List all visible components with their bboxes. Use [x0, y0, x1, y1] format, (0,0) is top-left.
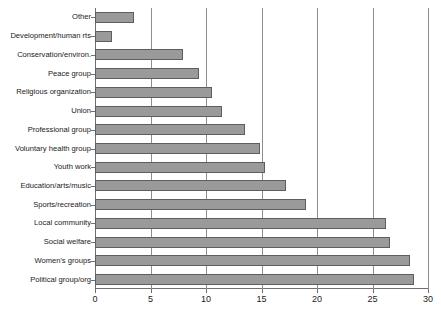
- x-tick-label: 25: [358, 294, 388, 304]
- y-tick-mark: [91, 205, 95, 206]
- category-label: Social welfare: [0, 238, 91, 246]
- y-tick-mark: [91, 92, 95, 93]
- bar: [95, 162, 265, 173]
- bar: [95, 124, 245, 135]
- x-tick-label: 5: [136, 294, 166, 304]
- category-label: Political group/org: [0, 276, 91, 284]
- category-label: Development/human rts: [0, 32, 91, 40]
- bar: [95, 218, 386, 229]
- y-tick-mark: [91, 130, 95, 131]
- category-label: Other: [0, 13, 91, 21]
- category-label: Union: [0, 107, 91, 115]
- bar: [95, 106, 222, 117]
- category-label: Sports/recreation: [0, 201, 91, 209]
- bar: [95, 237, 390, 248]
- category-label: Professional group: [0, 126, 91, 134]
- bar: [95, 180, 286, 191]
- y-tick-mark: [91, 167, 95, 168]
- y-tick-mark: [91, 223, 95, 224]
- y-tick-mark: [91, 36, 95, 37]
- x-tick-mark: [206, 289, 207, 293]
- bar: [95, 143, 260, 154]
- y-tick-mark: [91, 17, 95, 18]
- category-label: Religious organization: [0, 88, 91, 96]
- x-tick-label: 0: [80, 294, 110, 304]
- x-tick-mark: [428, 289, 429, 293]
- category-label: Voluntary health group: [0, 145, 91, 153]
- bar: [95, 87, 212, 98]
- x-tick-label: 15: [247, 294, 277, 304]
- category-label: Peace group: [0, 70, 91, 78]
- y-tick-mark: [91, 280, 95, 281]
- category-label: Education/arts/music: [0, 182, 91, 190]
- y-tick-mark: [91, 74, 95, 75]
- bar: [95, 255, 410, 266]
- bar: [95, 49, 183, 60]
- y-tick-mark: [91, 111, 95, 112]
- category-label: Conservation/environ.: [0, 51, 91, 59]
- bar: [95, 68, 199, 79]
- category-label: Youth work: [0, 163, 91, 171]
- y-tick-mark: [91, 149, 95, 150]
- bar: [95, 274, 414, 285]
- x-tick-label: 10: [191, 294, 221, 304]
- x-tick-label: 30: [413, 294, 441, 304]
- x-tick-mark: [262, 289, 263, 293]
- x-tick-label: 20: [302, 294, 332, 304]
- category-axis-labels: OtherDevelopment/human rtsConservation/e…: [0, 8, 91, 289]
- gridline-30: [428, 8, 429, 289]
- bar: [95, 31, 112, 42]
- x-tick-mark: [317, 289, 318, 293]
- category-label: Local community: [0, 219, 91, 227]
- bar-chart: OtherDevelopment/human rtsConservation/e…: [0, 0, 441, 317]
- category-label: Women's groups: [0, 257, 91, 265]
- y-tick-mark: [91, 186, 95, 187]
- x-tick-mark: [95, 289, 96, 293]
- bar: [95, 199, 306, 210]
- y-tick-mark: [91, 242, 95, 243]
- y-tick-mark: [91, 261, 95, 262]
- x-tick-mark: [373, 289, 374, 293]
- bar: [95, 12, 134, 23]
- y-tick-mark: [91, 55, 95, 56]
- plot-area: [95, 8, 428, 289]
- x-tick-mark: [151, 289, 152, 293]
